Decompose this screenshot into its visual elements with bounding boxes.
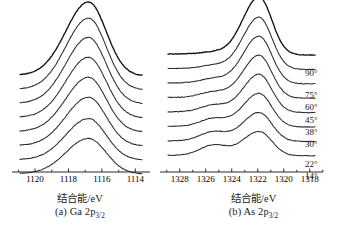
panel-caption-b-sub: 3/2 — [269, 212, 279, 220]
spectrum-curve — [168, 131, 315, 156]
angle-label: 14° — [305, 171, 318, 181]
xps-figure: 1120111811161114 结合能/eV (a) Ga 2p3/2 132… — [0, 0, 347, 233]
x-tick-label: 1326 — [197, 174, 216, 184]
x-tick-label: 1116 — [93, 174, 111, 184]
spectrum-curve — [20, 18, 142, 89]
spectrum-curve — [20, 37, 142, 103]
spectrum-curve — [20, 2, 142, 75]
spectrum-curve — [168, 55, 315, 98]
x-tick-label: 1322 — [249, 174, 267, 184]
panel-caption-b-text: (b) As 2p — [229, 206, 269, 217]
angle-label: 30° — [305, 139, 318, 149]
spectrum-curve — [168, 17, 315, 70]
panel-ga-2p: 1120111811161114 结合能/eV (a) Ga 2p3/2 — [0, 0, 160, 233]
x-tick-label: 1114 — [127, 174, 145, 184]
x-tick-label: 1118 — [60, 174, 78, 184]
x-tick-label: 1320 — [275, 174, 294, 184]
angle-label: 45° — [305, 115, 318, 125]
panel-caption-a: (a) Ga 2p3/2 — [0, 206, 160, 220]
panel-caption-b: (b) As 2p3/2 — [160, 206, 347, 220]
spectrum-curve — [168, 112, 315, 141]
angle-label: 38° — [305, 127, 318, 137]
panel-caption-a-sub: 3/2 — [96, 212, 106, 220]
angle-label: 60° — [305, 102, 318, 112]
panel-caption-a-text: (a) Ga 2p — [55, 206, 96, 217]
spectrum-curve — [168, 0, 315, 55]
plot-area-ga: 1120111811161114 — [0, 0, 160, 190]
angle-label: 90° — [305, 68, 318, 78]
angle-label: 22° — [305, 159, 318, 169]
x-tick-label: 1328 — [171, 174, 190, 184]
axis-unit-label-b: 结合能/eV — [160, 190, 347, 205]
spectra-svg-ga: 1120111811161114 — [0, 0, 160, 190]
angle-label: 75° — [305, 90, 318, 100]
x-tick-label: 1120 — [26, 174, 44, 184]
angle-legend: 90°75°60°45°38°30°22°14° — [305, 0, 347, 190]
x-tick-label: 1324 — [223, 174, 242, 184]
spectrum-curve — [168, 36, 315, 84]
spectrum-curve — [20, 77, 142, 132]
axis-unit-label-a: 结合能/eV — [0, 190, 160, 205]
